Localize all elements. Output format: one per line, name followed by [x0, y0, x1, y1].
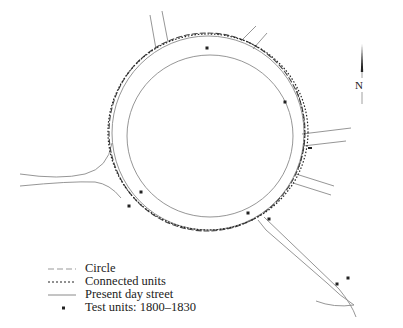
- square-marker-icon: [48, 303, 76, 313]
- street-east-3: [296, 174, 334, 186]
- dash-line-icon: [48, 264, 76, 274]
- street-east-1: [302, 128, 351, 134]
- street-west-2: [20, 182, 121, 198]
- street-north-east-2: [253, 33, 267, 49]
- outer-street-ring: [112, 36, 304, 230]
- solid-line-icon: [48, 290, 76, 300]
- dotted-line-icon: [48, 277, 76, 287]
- legend: Circle Connected units Present day stree…: [48, 262, 196, 314]
- street-south-east-1: [264, 217, 356, 317]
- street-east-4: [293, 183, 331, 195]
- street-east-2: [303, 141, 346, 146]
- north-label: N: [355, 79, 363, 91]
- street-south-east-2: [258, 220, 354, 306]
- street-north-east-1: [241, 26, 256, 41]
- legend-label: Test units: 1800–1830: [85, 301, 196, 314]
- north-arrow-icon: [361, 44, 363, 72]
- street-north-west-2: [162, 11, 168, 42]
- street-north-west-1: [150, 15, 156, 49]
- legend-item-test-units: Test units: 1800–1830: [48, 301, 196, 314]
- street-west-1: [20, 143, 112, 177]
- inner-street-ring: [127, 55, 293, 217]
- test-units: [128, 47, 350, 286]
